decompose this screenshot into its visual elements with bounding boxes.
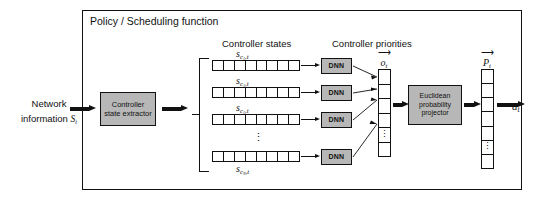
dnn-box-2: DNN xyxy=(321,85,352,101)
probability-cell xyxy=(482,98,493,112)
state-cell xyxy=(289,88,299,97)
priority-cell xyxy=(379,114,390,129)
state-vector-row-2 xyxy=(212,87,300,98)
projector-line2: probability xyxy=(419,101,451,110)
state-cell xyxy=(267,115,278,124)
arrow-input-to-extractor xyxy=(70,105,96,112)
priority-vector-label: ⟶ ot xyxy=(371,50,397,71)
state-cell xyxy=(224,61,235,70)
priority-vector xyxy=(378,69,391,157)
probability-vector-label: ⟶ Pt xyxy=(474,50,500,71)
arrow-priorities-to-projector xyxy=(393,101,408,108)
state-cell xyxy=(257,61,268,70)
arrow-probability-to-action xyxy=(497,101,525,108)
priority-cells-ellipsis xyxy=(379,128,390,143)
state-cell xyxy=(235,152,246,161)
diagram-canvas: Policy / Scheduling function Network inf… xyxy=(0,0,546,205)
network-information-label: Network information St xyxy=(8,96,90,129)
state-vector-row-n xyxy=(212,151,300,162)
state-cell xyxy=(289,61,299,70)
state-cell xyxy=(289,152,299,161)
priority-cell xyxy=(379,143,390,157)
state-cell xyxy=(224,88,235,97)
controller-state-extractor-box: Controller state extractor xyxy=(100,92,156,126)
probability-cell xyxy=(482,127,493,141)
state-cell xyxy=(235,61,246,70)
dnn-label: DNN xyxy=(329,152,345,162)
state-cell xyxy=(278,61,289,70)
state-cell xyxy=(246,115,257,124)
extractor-line1: Controller xyxy=(104,100,152,110)
state-cell xyxy=(235,115,246,124)
state-cell xyxy=(278,88,289,97)
dnn-label: DNN xyxy=(329,115,345,125)
extractor-line2: state extractor xyxy=(104,109,152,119)
state-cell xyxy=(246,88,257,97)
dnn-box-n: DNN xyxy=(321,149,352,165)
state-cell xyxy=(278,115,289,124)
state-rows-ellipsis: ⋮ xyxy=(253,132,264,143)
arrow-state-to-dnn-2 xyxy=(301,90,320,95)
euclidean-probability-projector-box: Euclidean probability projector xyxy=(408,85,462,125)
priority-cell xyxy=(379,99,390,114)
state-cell xyxy=(224,152,235,161)
state-cell xyxy=(224,115,235,124)
dnn-label: DNN xyxy=(329,61,345,71)
action-output-label: at xyxy=(512,100,520,114)
priority-cell xyxy=(379,70,390,85)
controller-priorities-header: Controller priorities xyxy=(332,38,412,49)
state-cell xyxy=(257,115,268,124)
network-information-line2: information St xyxy=(8,111,90,129)
state-vector-row-3 xyxy=(212,114,300,125)
state-label-n: scN,t xyxy=(236,163,249,179)
arrow-state-to-dnn-1 xyxy=(301,63,320,68)
state-cell xyxy=(267,152,278,161)
priority-cell xyxy=(379,85,390,100)
frame-title: Policy / Scheduling function xyxy=(90,15,218,27)
state-cell xyxy=(213,88,224,97)
dnn-box-1: DNN xyxy=(321,58,352,74)
projector-line3: projector xyxy=(419,109,451,118)
state-vector-row-1 xyxy=(212,60,300,71)
vector-arrow-icon: ⟶ xyxy=(474,50,500,57)
projector-line1: Euclidean xyxy=(419,92,451,101)
state-cell xyxy=(246,152,257,161)
vector-arrow-icon: ⟶ xyxy=(371,50,397,57)
probability-cell xyxy=(482,155,493,168)
state-symbol-n: scN,t xyxy=(236,163,249,179)
probability-cell xyxy=(482,70,493,84)
probability-cells-ellipsis xyxy=(482,141,493,155)
state-cell xyxy=(213,61,224,70)
state-symbol: St xyxy=(71,114,78,124)
state-cell xyxy=(257,88,268,97)
state-cell xyxy=(235,88,246,97)
state-cell xyxy=(267,61,278,70)
states-group-bracket xyxy=(199,58,209,172)
probability-cell xyxy=(482,112,493,126)
arrow-state-to-dnn-n xyxy=(301,154,320,159)
probability-vector xyxy=(481,69,494,169)
arrow-projector-to-probability xyxy=(464,101,480,108)
state-cell xyxy=(278,152,289,161)
arrow-extractor-to-states xyxy=(162,105,188,112)
probability-cell xyxy=(482,84,493,98)
controller-states-header: Controller states xyxy=(222,38,291,49)
bracket-stem xyxy=(192,114,200,115)
state-cell xyxy=(246,61,257,70)
state-cell xyxy=(267,88,278,97)
dnn-box-3: DNN xyxy=(321,112,352,128)
dnn-label: DNN xyxy=(329,88,345,98)
arrow-state-to-dnn-3 xyxy=(301,117,320,122)
state-cell xyxy=(213,115,224,124)
state-cell xyxy=(213,152,224,161)
state-cell xyxy=(257,152,268,161)
state-cell xyxy=(289,115,299,124)
